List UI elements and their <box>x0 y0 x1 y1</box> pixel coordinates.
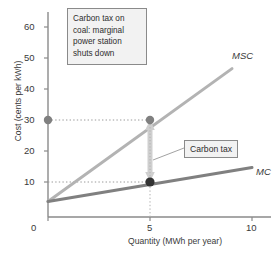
x-tick-label-10: 10 <box>246 222 257 233</box>
annotation-textbox: Carbon tax on coal: marginal power stati… <box>67 8 147 65</box>
y-tick-label-50: 50 <box>24 52 35 63</box>
y-tick-label-40: 40 <box>24 83 35 94</box>
x-axis-title: Quantity (MWh per year) <box>128 236 222 246</box>
carbon-tax-chart: 60 50 40 30 20 10 0 5 10 Cost (cents per… <box>0 0 279 256</box>
carbon-tax-callout: Carbon tax <box>184 140 238 158</box>
point-axis-30 <box>44 116 52 124</box>
tax-callout-leader <box>153 148 184 160</box>
point-msc-q5 <box>146 116 154 124</box>
msc-curve-label: MSC <box>232 50 253 61</box>
y-tick-label-0: 0 <box>31 222 36 233</box>
carbon-tax-arrow <box>145 120 155 182</box>
y-tick-label-20: 20 <box>24 145 35 156</box>
x-tick-label-5: 5 <box>147 222 152 233</box>
point-mc-q5 <box>145 177 154 186</box>
y-tick-label-30: 30 <box>24 114 35 125</box>
msc-curve <box>48 69 232 202</box>
y-axis-title: Cost (cents per kWh) <box>13 46 23 156</box>
mc-curve-label: MC <box>256 166 271 177</box>
y-tick-label-10: 10 <box>24 176 35 187</box>
y-tick-label-60: 60 <box>24 21 35 32</box>
